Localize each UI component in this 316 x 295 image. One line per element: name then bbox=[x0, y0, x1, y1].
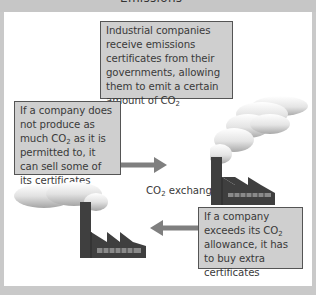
co2-label: CO2 bbox=[51, 133, 70, 144]
info-box-buy: If a company exceeds its CO2 allowance, … bbox=[198, 207, 303, 269]
factory-icon bbox=[80, 202, 150, 258]
info-box-certificates: Industrial companies receive emissions c… bbox=[100, 21, 233, 99]
info-text: If a company exceeds its bbox=[204, 211, 269, 236]
title-strip: Emissions trading explained bbox=[0, 0, 316, 12]
co2-label: CO2 bbox=[263, 225, 282, 236]
co2-label: CO2 bbox=[161, 95, 180, 106]
diagram-title: Emissions trading explained bbox=[120, 0, 220, 4]
info-text: Industrial companies receive emissions c… bbox=[106, 25, 220, 106]
arrow-left-icon bbox=[150, 220, 198, 236]
factory-icon bbox=[211, 157, 281, 205]
diagram-panel: Industrial companies receive emissions c… bbox=[4, 12, 312, 286]
arrow-right-icon bbox=[121, 157, 167, 173]
info-text: allowance, it has to buy extra certifica… bbox=[204, 239, 288, 278]
info-box-sell: If a company does not produce as much CO… bbox=[14, 101, 121, 175]
